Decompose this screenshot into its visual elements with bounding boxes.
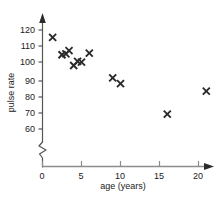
x-axis-title: age (years) — [0, 182, 222, 191]
y-tick-label-90: 90 — [13, 77, 35, 86]
y-tick-label-100: 100 — [13, 58, 35, 67]
data-point-marker — [164, 111, 171, 118]
x-tick-label-10: 10 — [115, 172, 125, 181]
data-point-markers — [49, 34, 210, 118]
y-tick-label-120: 120 — [13, 26, 35, 35]
x-tick-label-5: 5 — [78, 172, 83, 181]
data-point-marker — [66, 47, 73, 54]
x-axis-arrow-icon — [204, 163, 214, 170]
x-tick-label-20: 20 — [193, 172, 203, 181]
x-axis-title-text: age (years) — [76, 181, 146, 191]
y-axis-arrow-icon — [39, 13, 46, 23]
y-tick-label-110: 110 — [13, 42, 35, 51]
x-tick-label-15: 15 — [154, 172, 164, 181]
y-axis-title: pulse rate — [7, 65, 16, 121]
data-point-marker — [86, 50, 93, 57]
y-tick-label-80: 80 — [13, 93, 35, 102]
data-point-marker — [117, 80, 124, 87]
y-tick-label-60: 60 — [13, 125, 35, 134]
data-point-marker — [109, 74, 116, 81]
x-tick-label-0: 0 — [39, 172, 44, 181]
x-axis-ticks — [43, 161, 199, 167]
axis-lines — [39, 13, 214, 170]
data-point-marker — [203, 88, 210, 95]
scatter-chart: 120 110 100 90 80 70 60 0 5 10 15 20 pul… — [0, 0, 222, 200]
data-point-marker — [49, 34, 56, 41]
y-tick-label-70: 70 — [13, 109, 35, 118]
